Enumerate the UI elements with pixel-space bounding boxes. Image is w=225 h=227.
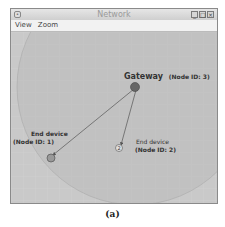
menu-bar: View Zoom — [11, 20, 217, 32]
node-1-role: End device — [31, 130, 68, 137]
gateway-node[interactable] — [131, 83, 140, 92]
minimize-button[interactable]: _ — [191, 11, 198, 18]
network-canvas[interactable]: 2 Gateway (Node ID: 3) End device (Node … — [11, 32, 217, 203]
menu-zoom[interactable]: Zoom — [38, 21, 58, 29]
menu-view[interactable]: View — [15, 21, 32, 29]
gateway-label: Gateway (Node ID: 3) — [124, 72, 210, 81]
maximize-button[interactable]: □ — [199, 11, 206, 18]
node-2-marker: 2 — [117, 145, 120, 151]
close-button[interactable]: × — [207, 11, 214, 18]
gateway-role: Gateway — [124, 72, 163, 81]
node-2-role: End device — [136, 138, 169, 145]
figure-caption: (a) — [0, 209, 225, 219]
window-title: Network — [11, 9, 217, 20]
node-2-id: (Node ID: 2) — [135, 146, 176, 153]
network-graph: 2 — [11, 32, 217, 203]
node-1-id: (Node ID: 1) — [13, 138, 54, 145]
title-bar[interactable]: • Network _ □ × — [11, 9, 217, 20]
network-window: • Network _ □ × View Zoom 2 — [10, 8, 218, 204]
gateway-id: (Node ID: 3) — [169, 73, 210, 80]
end-device-node-1[interactable] — [47, 154, 55, 162]
